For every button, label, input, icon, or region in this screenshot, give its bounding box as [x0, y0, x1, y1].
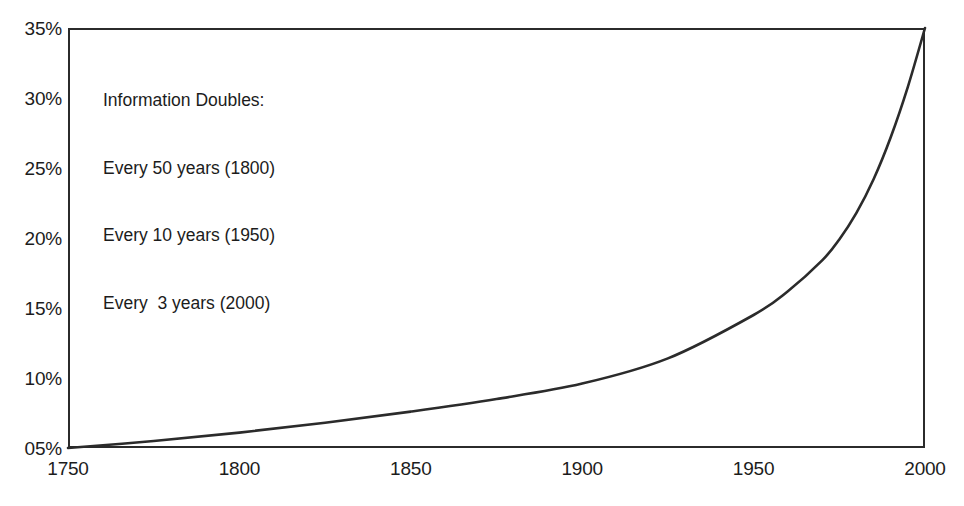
y-tick-label: 20% — [6, 229, 62, 248]
x-tick-label: 1800 — [179, 459, 299, 478]
information-growth-chart: 05%10%15%20%25%30%35% 175018001850190019… — [0, 0, 964, 506]
y-tick-label: 15% — [6, 299, 62, 318]
x-tick-label: 1950 — [694, 459, 814, 478]
annotation-line-4: Every 3 years (2000) — [103, 292, 275, 315]
annotation-line-3: Every 10 years (1950) — [103, 224, 275, 247]
y-tick-label: 25% — [6, 159, 62, 178]
annotation-line-1: Information Doubles: — [103, 89, 275, 112]
x-tick-label: 1850 — [351, 459, 471, 478]
x-tick-label: 2000 — [865, 459, 964, 478]
information-doubles-annotation: Information Doubles: Every 50 years (180… — [103, 44, 275, 359]
y-tick-label: 35% — [6, 19, 62, 38]
y-tick-label: 10% — [6, 369, 62, 388]
annotation-line-2: Every 50 years (1800) — [103, 157, 275, 180]
y-tick-label: 30% — [6, 89, 62, 108]
x-tick-label: 1750 — [8, 459, 128, 478]
y-tick-label: 05% — [6, 439, 62, 458]
x-tick-label: 1900 — [522, 459, 642, 478]
